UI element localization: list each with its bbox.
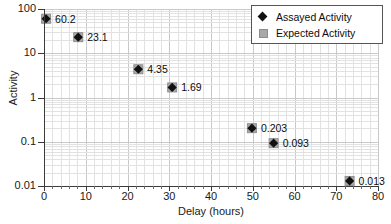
y-axis-line bbox=[44, 9, 45, 186]
x-axis-tick-label: 70 bbox=[330, 191, 342, 202]
x-axis-minor-tick bbox=[269, 186, 270, 189]
chart-container: 0.010.111010001020304050607080 60.223.14… bbox=[0, 0, 391, 224]
x-axis-minor-tick bbox=[328, 186, 329, 189]
x-axis-minor-tick bbox=[52, 186, 53, 189]
x-axis-tick-label: 10 bbox=[80, 191, 92, 202]
x-axis-minor-tick bbox=[345, 186, 346, 189]
x-axis-title: Delay (hours) bbox=[44, 205, 378, 217]
data-point-label: 1.69 bbox=[181, 82, 201, 93]
x-axis-minor-tick bbox=[153, 186, 154, 189]
x-axis-minor-tick bbox=[244, 186, 245, 189]
y-axis-tick-label: 0.1 bbox=[21, 136, 44, 147]
x-axis-tick-label: 0 bbox=[41, 191, 47, 202]
legend-label-assayed: Assayed Activity bbox=[276, 12, 352, 23]
y-axis-tick-label: 100 bbox=[18, 3, 44, 14]
x-axis-minor-tick bbox=[320, 186, 321, 189]
x-axis-minor-tick bbox=[278, 186, 279, 189]
x-axis-minor-tick bbox=[61, 186, 62, 189]
x-axis-minor-tick bbox=[311, 186, 312, 189]
diamond-marker-icon bbox=[257, 10, 271, 24]
x-axis-minor-tick bbox=[77, 186, 78, 189]
x-axis-minor-tick bbox=[136, 186, 137, 189]
square-marker-icon bbox=[257, 26, 271, 40]
data-point-label: 0.093 bbox=[283, 138, 309, 149]
x-axis-tick-label: 60 bbox=[288, 191, 300, 202]
legend-entry-assayed: Assayed Activity bbox=[257, 9, 378, 25]
data-point-label: 0.013 bbox=[359, 176, 385, 187]
x-axis-minor-tick bbox=[353, 186, 354, 189]
data-point-label: 60.2 bbox=[55, 14, 75, 25]
y-axis-tick-label: 10 bbox=[24, 47, 44, 58]
x-axis-minor-tick bbox=[178, 186, 179, 189]
x-axis-minor-tick bbox=[303, 186, 304, 189]
x-axis-tick-label: 20 bbox=[121, 191, 133, 202]
y-axis-title: Activity bbox=[7, 43, 19, 133]
x-axis-minor-tick bbox=[119, 186, 120, 189]
x-axis-tick-label: 30 bbox=[163, 191, 175, 202]
legend-entry-expected: Expected Activity bbox=[257, 25, 378, 41]
x-axis-minor-tick bbox=[186, 186, 187, 189]
legend-label-expected: Expected Activity bbox=[276, 28, 355, 39]
y-axis-tick-label: 1 bbox=[30, 92, 44, 103]
x-axis-minor-tick bbox=[161, 186, 162, 189]
legend: Assayed Activity Expected Activity bbox=[251, 5, 383, 44]
data-point-label: 23.1 bbox=[87, 32, 107, 43]
x-axis-minor-tick bbox=[219, 186, 220, 189]
x-axis-minor-tick bbox=[203, 186, 204, 189]
x-axis-tick-label: 40 bbox=[205, 191, 217, 202]
y-axis-tick-label: 0.01 bbox=[15, 180, 44, 191]
x-axis-tick-label: 80 bbox=[372, 191, 384, 202]
x-axis-minor-tick bbox=[194, 186, 195, 189]
x-axis-minor-tick bbox=[102, 186, 103, 189]
x-axis-minor-tick bbox=[94, 186, 95, 189]
x-axis-minor-tick bbox=[69, 186, 70, 189]
x-axis-tick-label: 50 bbox=[247, 191, 259, 202]
data-point-label: 4.35 bbox=[147, 64, 167, 75]
x-axis-minor-tick bbox=[111, 186, 112, 189]
x-axis-minor-tick bbox=[236, 186, 237, 189]
x-axis-minor-tick bbox=[261, 186, 262, 189]
x-axis-minor-tick bbox=[286, 186, 287, 189]
x-axis-minor-tick bbox=[228, 186, 229, 189]
data-point-label: 0.203 bbox=[261, 123, 287, 134]
x-axis-minor-tick bbox=[144, 186, 145, 189]
